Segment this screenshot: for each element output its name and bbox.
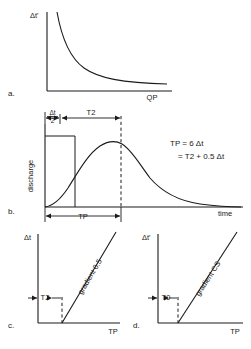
diagram-canvas: a. Δt' QP b. discharge Δt 2 T2 <box>0 0 251 349</box>
panel-c-letter: c. <box>8 321 14 330</box>
panel-d-letter: d. <box>133 321 140 330</box>
panel-b: b. discharge Δt 2 T2 TP TP = 6 Δt = T2 +… <box>8 108 243 222</box>
panel-a-decay-curve <box>57 12 167 84</box>
panel-b-x-axis-label: time <box>218 209 232 218</box>
panel-c-gradient-label: gradient 0.5 <box>76 257 104 296</box>
panel-d-y-axis-label: Δt' <box>142 233 151 242</box>
panel-b-equation-line2: = T2 + 0.5 Δt <box>178 152 225 161</box>
panel-c-y-axis-label: Δt <box>24 233 32 242</box>
panel-b-letter: b. <box>8 207 15 216</box>
hydrograph-figure: a. Δt' QP b. discharge Δt 2 T2 <box>0 0 251 349</box>
panel-b-t2-label: T2 <box>87 108 96 117</box>
panel-d-x-axis-label: TP <box>230 327 240 336</box>
panel-a-y-axis-label: Δt' <box>30 11 39 20</box>
panel-b-equation-line1: TP = 6 Δt <box>170 139 204 148</box>
panel-c-interval-label: T2 <box>41 293 50 302</box>
panel-d-gradient-label: gradient CS <box>193 260 222 298</box>
panel-b-rainfall-pulse <box>45 136 75 207</box>
panel-b-tp-label: TP <box>78 212 88 221</box>
panel-b-y-axis-label: discharge <box>26 160 35 193</box>
panel-a: a. Δt' QP <box>8 11 172 102</box>
panel-d-interval-label: T0 <box>162 293 171 302</box>
panel-a-x-axis-label: QP <box>147 93 158 102</box>
panel-a-letter: a. <box>8 89 15 98</box>
panel-c: c. Δt T2 gradient 0.5 TP <box>8 232 120 336</box>
panel-b-pulse-numerator: Δt <box>49 109 55 116</box>
panel-c-x-axis-label: TP <box>108 327 118 336</box>
panel-d: d. Δt' T0 gradient CS TP <box>133 232 243 336</box>
panel-b-pulse-denominator: 2 <box>51 117 55 124</box>
